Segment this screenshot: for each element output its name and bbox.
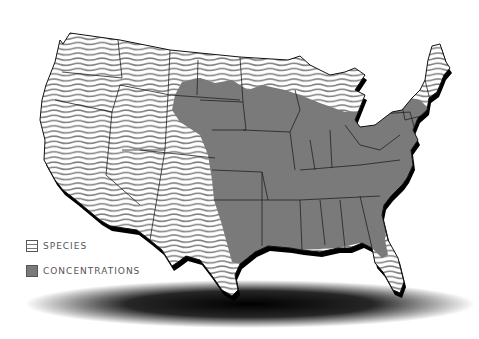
legend-label-species: SPECIES [43,241,87,251]
legend-label-concentrations: CONCENTRATIONS [43,266,140,276]
legend-item-concentrations: CONCENTRATIONS [26,264,140,278]
map-legend: SPECIES CONCENTRATIONS [26,239,140,289]
species-swatch-icon [26,240,38,252]
legend-item-species: SPECIES [26,239,140,253]
concentrations-swatch-icon [26,265,38,277]
